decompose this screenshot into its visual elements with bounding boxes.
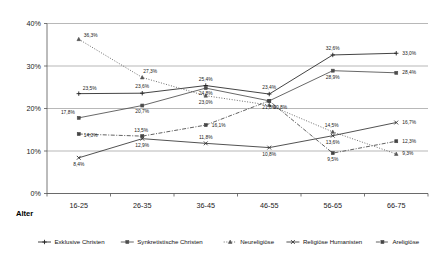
data-point-marker — [204, 124, 207, 127]
axes — [44, 24, 428, 197]
data-point-marker — [77, 37, 81, 40]
data-label: 36,3% — [84, 33, 99, 38]
x-tick-label: 16-25 — [70, 201, 88, 210]
data-label: 28,4% — [402, 70, 417, 75]
x-tick-label: 46-55 — [260, 201, 278, 210]
x-tick-label: 36-45 — [197, 201, 215, 210]
legend-label-4[interactable]: Religiöse Humanisten — [303, 238, 362, 245]
data-point-marker — [381, 241, 384, 244]
y-tick-label: 10% — [27, 147, 42, 156]
data-label: 17,8% — [61, 110, 76, 115]
data-point-marker — [77, 116, 80, 119]
data-point-marker — [126, 241, 129, 244]
data-label: 13,5% — [134, 128, 149, 133]
data-label: 12,9% — [135, 143, 150, 148]
data-label: 16,1% — [212, 123, 227, 128]
data-label: 33,0% — [402, 51, 417, 56]
x-tick-label: 26-35 — [133, 201, 151, 210]
data-point-marker — [268, 99, 271, 102]
data-label: 23,6% — [135, 84, 150, 89]
data-label: 20,7% — [135, 109, 150, 114]
legend-label-2[interactable]: Synkretistische Christen — [137, 238, 202, 245]
data-label: 20,8% — [273, 105, 288, 110]
data-label: 11,8% — [199, 135, 213, 140]
data-point-marker — [395, 140, 398, 143]
data-label: 16,7% — [402, 120, 417, 125]
chart-legend: Exklusive ChristenSynkretistische Christ… — [38, 238, 420, 245]
data-point-marker — [141, 104, 144, 107]
x-axis-tick-labels: 16-2526-3536-4546-5556-6566-75 — [70, 201, 406, 210]
data-label: 27,3% — [143, 69, 158, 74]
data-label: 14,5% — [325, 123, 340, 128]
line-chart: 0%10%20%30%40% 16-2526-3536-4546-5556-65… — [0, 0, 441, 264]
data-label: 10,8% — [262, 152, 277, 157]
legend-label-3[interactable]: Neureligiöse — [240, 238, 274, 245]
data-label: 24,8% — [199, 91, 214, 96]
data-point-marker — [394, 152, 398, 155]
x-tick-label: 56-65 — [324, 201, 342, 210]
data-label: 8,4% — [73, 162, 85, 167]
data-label: 25,4% — [199, 77, 214, 82]
data-label: 14,0% — [84, 133, 99, 138]
data-label: 23,5% — [83, 86, 98, 91]
gridlines — [47, 24, 428, 194]
y-tick-label: 30% — [27, 62, 42, 71]
data-point-marker — [331, 152, 334, 155]
data-point-marker — [141, 135, 144, 138]
data-label: 13,6% — [326, 140, 341, 145]
series-line — [79, 123, 397, 158]
y-tick-label: 0% — [31, 189, 42, 198]
data-point-marker — [331, 69, 334, 72]
y-tick-label: 40% — [27, 19, 42, 28]
data-point-marker — [140, 76, 144, 79]
data-point-marker — [331, 130, 335, 133]
series-line — [79, 39, 397, 154]
data-label: 32,6% — [326, 46, 341, 51]
chart-container: 0%10%20%30%40% 16-2526-3536-4546-5556-65… — [0, 0, 441, 264]
data-label: 9,3% — [402, 151, 414, 156]
x-axis-title: Alter — [16, 209, 33, 218]
data-label: 12,3% — [402, 139, 417, 144]
x-tick-label: 66-75 — [387, 201, 405, 210]
data-label: 9,5% — [327, 157, 339, 162]
y-axis-tick-labels: 0%10%20%30%40% — [27, 19, 42, 198]
data-point-marker — [77, 133, 80, 136]
series-line — [79, 53, 397, 94]
data-label: 23,0% — [199, 100, 214, 105]
legend-label-1[interactable]: Exklusive Christen — [55, 238, 105, 245]
data-point-marker — [395, 71, 398, 74]
legend-label-5[interactable]: Areligiöse — [392, 238, 419, 245]
series-line — [79, 71, 397, 118]
data-label: 28,9% — [326, 75, 341, 80]
y-tick-label: 20% — [27, 104, 42, 113]
data-point-marker — [204, 87, 207, 90]
series-lines — [77, 37, 399, 159]
data-label: 23,4% — [262, 85, 277, 90]
